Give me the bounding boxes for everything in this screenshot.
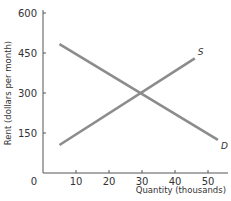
y-tick-label: 300 — [18, 88, 37, 99]
axis-ticks: 01020304050150300450600 — [18, 8, 214, 188]
x-tick-label: 10 — [70, 176, 83, 187]
x-axis-title: Quantity (thousands) — [136, 185, 226, 195]
supply-curve — [60, 58, 195, 145]
y-tick-label: 450 — [18, 48, 37, 59]
curves: SD — [60, 44, 228, 151]
demand-label: D — [221, 141, 228, 151]
supply-label: S — [198, 47, 204, 57]
y-axis-title: Rent (dollars per month) — [3, 41, 13, 145]
y-tick-label: 150 — [18, 128, 37, 139]
y-tick-label: 600 — [18, 8, 37, 19]
x-tick-label: 0 — [31, 176, 37, 187]
x-tick-label: 20 — [103, 176, 116, 187]
supply-demand-chart: 01020304050150300450600 SD Rent (dollars… — [0, 0, 231, 201]
